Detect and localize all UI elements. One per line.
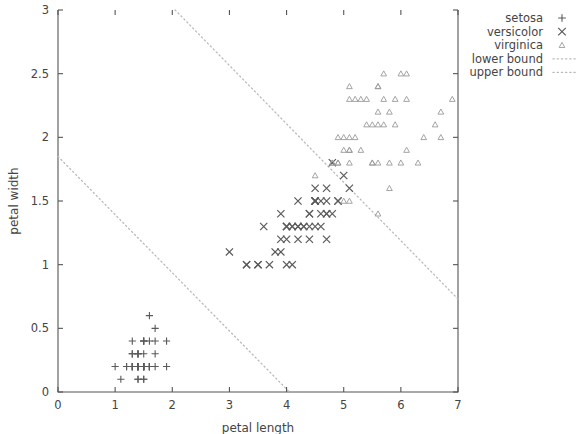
- legend-label-versicolor: versicolor: [487, 25, 543, 39]
- data-point-triangle: [364, 122, 370, 127]
- data-point-triangle: [369, 160, 375, 165]
- data-point-plus: [134, 363, 141, 370]
- bound-line-upper-bound: [175, 10, 458, 299]
- data-point-plus: [112, 363, 119, 370]
- data-point-plus: [152, 350, 159, 357]
- data-point-triangle: [341, 147, 347, 152]
- data-point-triangle: [404, 147, 410, 152]
- data-point-triangle: [387, 185, 393, 190]
- data-point-cross: [317, 210, 324, 217]
- x-tick-label: 5: [340, 398, 347, 412]
- legend-label-upper-bound: upper bound: [469, 65, 543, 79]
- data-point-triangle: [347, 96, 353, 101]
- data-point-cross: [272, 248, 279, 255]
- data-point-plus: [134, 350, 141, 357]
- data-point-cross: [323, 185, 330, 192]
- legend-marker-versicolor: [558, 28, 566, 36]
- data-point-cross: [294, 236, 301, 243]
- data-point-triangle: [421, 134, 427, 139]
- plot-canvas: 01234567petal length00.511.522.53petal w…: [0, 0, 585, 434]
- y-tick-label: 0.5: [31, 321, 49, 335]
- legend-label-setosa: setosa: [505, 11, 543, 25]
- x-axis-title: petal length: [222, 421, 294, 434]
- data-point-cross: [294, 197, 301, 204]
- data-point-triangle: [341, 198, 347, 203]
- x-tick-label: 0: [54, 398, 61, 412]
- legend-label-virginica: virginica: [494, 38, 543, 52]
- data-point-triangle: [392, 96, 398, 101]
- data-point-triangle: [398, 160, 404, 165]
- y-tick-label: 1.5: [31, 194, 49, 208]
- y-tick-label: 3: [42, 3, 49, 17]
- series-virginica: [312, 71, 455, 216]
- x-axis: 01234567petal length: [54, 10, 461, 434]
- scatter-plot-figure: 01234567petal length00.511.522.53petal w…: [0, 0, 585, 434]
- data-point-cross: [340, 172, 347, 179]
- y-axis: 00.511.522.53petal width: [7, 3, 458, 399]
- data-point-plus: [558, 14, 566, 22]
- bound-lines: [58, 10, 458, 392]
- data-point-triangle: [358, 96, 364, 101]
- data-point-triangle: [404, 96, 410, 101]
- data-point-triangle: [381, 122, 387, 127]
- x-tick-label: 7: [454, 398, 461, 412]
- x-tick-label: 1: [111, 398, 118, 412]
- data-point-cross: [260, 223, 267, 230]
- y-axis-title: petal width: [7, 167, 21, 234]
- x-tick-label: 3: [226, 398, 233, 412]
- data-point-triangle: [432, 122, 438, 127]
- data-point-cross: [558, 28, 566, 36]
- y-tick-label: 0: [42, 385, 49, 399]
- series-setosa: [112, 312, 171, 383]
- data-point-cross: [254, 261, 261, 268]
- data-point-triangle: [347, 134, 353, 139]
- data-point-triangle: [352, 96, 358, 101]
- data-point-cross: [306, 210, 313, 217]
- data-point-triangle: [387, 109, 393, 114]
- data-point-plus: [129, 337, 136, 344]
- data-point-cross: [283, 236, 290, 243]
- data-point-cross: [312, 185, 319, 192]
- data-point-triangle: [392, 122, 398, 127]
- data-point-triangle: [449, 96, 455, 101]
- data-point-triangle: [387, 160, 393, 165]
- y-tick-label: 2.5: [31, 67, 49, 81]
- data-point-triangle: [375, 84, 381, 89]
- legend-marker-virginica: [559, 42, 565, 47]
- data-point-plus: [140, 337, 147, 344]
- data-point-triangle: [341, 134, 347, 139]
- data-point-plus: [163, 363, 170, 370]
- data-point-cross: [306, 236, 313, 243]
- x-tick-label: 6: [397, 398, 404, 412]
- data-point-triangle: [438, 109, 444, 114]
- data-point-cross: [226, 248, 233, 255]
- data-point-triangle: [335, 134, 341, 139]
- data-point-triangle: [415, 160, 421, 165]
- data-point-cross: [243, 261, 250, 268]
- data-point-triangle: [375, 160, 381, 165]
- data-point-cross: [312, 197, 319, 204]
- data-point-cross: [266, 261, 273, 268]
- data-point-triangle: [347, 84, 353, 89]
- data-point-triangle: [347, 147, 353, 152]
- axes-box: [58, 10, 458, 392]
- data-point-cross: [277, 210, 284, 217]
- legend-label-lower-bound: lower bound: [472, 52, 543, 66]
- data-point-plus: [146, 312, 153, 319]
- data-point-triangle: [398, 71, 404, 76]
- data-point-plus: [163, 337, 170, 344]
- data-point-triangle: [312, 173, 318, 178]
- data-point-triangle: [347, 198, 353, 203]
- data-point-triangle: [364, 96, 370, 101]
- data-point-triangle: [381, 96, 387, 101]
- legend-marker-setosa: [558, 14, 566, 22]
- data-point-triangle: [559, 42, 565, 47]
- series-versicolor: [226, 159, 353, 268]
- data-point-plus: [152, 325, 159, 332]
- data-point-cross: [323, 197, 330, 204]
- data-point-triangle: [438, 134, 444, 139]
- x-tick-label: 4: [283, 398, 290, 412]
- data-point-triangle: [375, 122, 381, 127]
- data-point-triangle: [335, 160, 341, 165]
- data-point-triangle: [358, 147, 364, 152]
